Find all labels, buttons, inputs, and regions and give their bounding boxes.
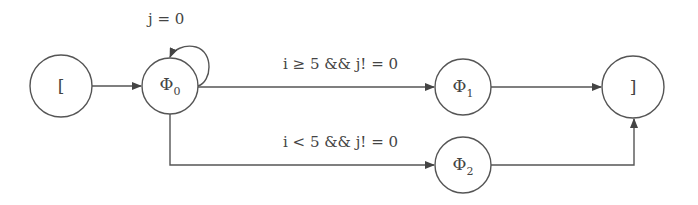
edge-phi2-end: [491, 119, 634, 165]
node-phi1-label: Φ1: [453, 76, 474, 99]
diagram-canvas: [0, 0, 698, 205]
loop-label: j = 0: [148, 10, 184, 28]
node-phi0-label: Φ0: [160, 74, 181, 97]
edge-phi2-label: i < 5 && j! = 0: [283, 133, 398, 151]
node-start-label: [: [58, 76, 65, 96]
node-phi2-label: Φ2: [453, 154, 474, 177]
node-end-label: ]: [630, 77, 637, 97]
edge-phi1-label: i ≥ 5 && j! = 0: [283, 55, 398, 73]
